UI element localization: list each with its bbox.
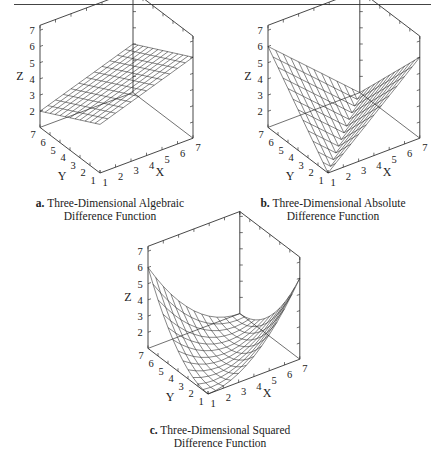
x-tick-label: 7 — [302, 363, 307, 374]
x-tick-label: 4 — [256, 381, 262, 392]
mesh-line — [163, 286, 223, 386]
z-tick-label: 2 — [137, 327, 142, 338]
mesh-line — [148, 267, 240, 317]
x-tick-label: 3 — [241, 386, 246, 397]
y-tick-label: 2 — [188, 388, 193, 399]
z-tick-label: 5 — [137, 279, 142, 290]
y-tick-label: 5 — [158, 366, 163, 377]
mesh-line — [240, 278, 300, 320]
x-axis-title: X — [263, 386, 272, 400]
x-tick-label: 2 — [226, 392, 231, 403]
mesh-line — [198, 295, 290, 384]
mesh-line — [193, 302, 285, 377]
z-tick-label: 7 — [137, 246, 142, 257]
floor-back-right — [240, 314, 300, 360]
y-tick-label: 7 — [138, 350, 143, 361]
y-tick-label: 6 — [148, 358, 153, 369]
caption-c-letter: c. — [150, 424, 158, 436]
caption-c-line1: Three-Dimensional Squared — [160, 424, 290, 436]
surface-plot-c: 23456712345671234567ZXY — [0, 0, 441, 450]
figure-c: 23456712345671234567ZXY — [0, 0, 441, 450]
caption-c-line2: Difference Function — [174, 437, 267, 449]
z-axis-title: Z — [124, 290, 131, 304]
x-tick-label: 6 — [287, 369, 292, 380]
x-tick-label: 1 — [210, 398, 215, 409]
mesh-line — [225, 309, 285, 334]
y-tick-label: 3 — [178, 381, 183, 392]
y-axis-title: Y — [166, 390, 175, 404]
y-tick-label: 1 — [198, 396, 203, 407]
z-tick-label: 3 — [137, 311, 142, 322]
y-tick-label: 4 — [168, 373, 174, 384]
z-tick-label: 4 — [137, 295, 143, 306]
caption-c: c. Three-Dimensional Squared Difference … — [120, 424, 320, 450]
mesh-line — [178, 316, 270, 357]
z-tick-label: 6 — [137, 262, 142, 273]
mesh-line — [183, 313, 275, 365]
x-tick-label: 5 — [272, 375, 277, 386]
